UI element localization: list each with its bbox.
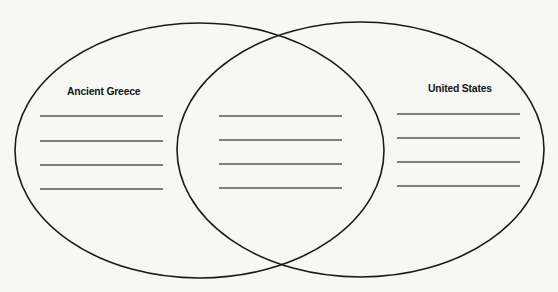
left-circle-ancient-greece bbox=[15, 23, 384, 278]
right-answer-lines bbox=[397, 114, 520, 186]
right-circle-united-states bbox=[177, 22, 544, 277]
label-ancient-greece: Ancient Greece bbox=[67, 85, 140, 97]
venn-diagram bbox=[0, 0, 558, 292]
overlap-answer-lines bbox=[219, 116, 342, 188]
left-answer-lines bbox=[40, 116, 163, 189]
label-united-states: United States bbox=[428, 82, 492, 94]
